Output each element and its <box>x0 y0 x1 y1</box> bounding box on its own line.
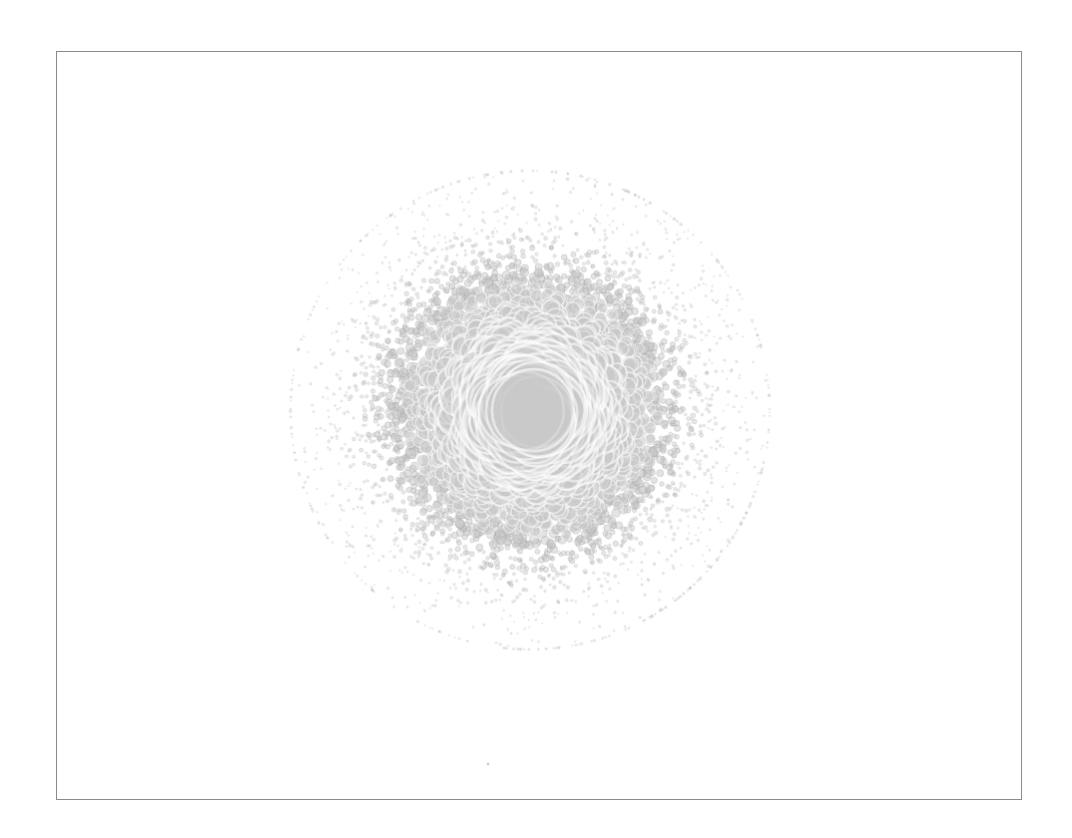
plot-axes-frame <box>56 51 1022 800</box>
scatter-plot-canvas <box>57 52 1021 799</box>
figure-canvas: Radial bubble scatter: a single dense ci… <box>0 0 1072 838</box>
